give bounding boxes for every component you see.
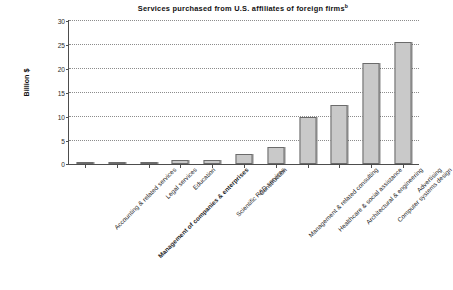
y-tick-label-5: 5 — [61, 138, 65, 145]
y-tick-label-10: 10 — [58, 114, 65, 121]
bar-slot — [228, 20, 260, 164]
bar-slot — [324, 20, 356, 164]
bar-slot — [196, 20, 228, 164]
x-axis-category-labels: Accounting & related servicesManagement … — [68, 166, 418, 288]
bar-slot — [69, 20, 101, 164]
bar[interactable] — [235, 154, 252, 164]
bar[interactable] — [395, 42, 412, 164]
bar[interactable] — [331, 105, 348, 164]
y-tick-label-0: 0 — [61, 161, 65, 168]
y-tick-label-25: 25 — [58, 42, 65, 49]
x-axis-label-5: Construction — [258, 166, 288, 196]
chart-title: Services purchased from U.S. affiliates … — [78, 3, 408, 13]
bar-slot — [164, 20, 196, 164]
x-axis-label-9: Computer systems design — [396, 166, 453, 223]
chart-title-footnote-marker: b — [345, 3, 348, 9]
bar[interactable] — [267, 147, 284, 164]
bar-slot — [101, 20, 133, 164]
chart-title-text: Services purchased from U.S. affiliates … — [138, 4, 345, 13]
y-tick-mark-0 — [66, 164, 70, 165]
bar-slot — [292, 20, 324, 164]
y-tick-label-15: 15 — [58, 90, 65, 97]
bar-slot — [260, 20, 292, 164]
bar-slot — [387, 20, 419, 164]
plot-area: 051015202530 — [68, 20, 419, 165]
y-axis-title: Billion $ — [22, 53, 31, 113]
bar-slot — [355, 20, 387, 164]
bar[interactable] — [299, 117, 316, 164]
y-tick-label-30: 30 — [58, 18, 65, 25]
y-tick-label-20: 20 — [58, 66, 65, 73]
bars-layer — [69, 20, 419, 164]
bar-slot — [133, 20, 165, 164]
bar[interactable] — [363, 63, 380, 164]
